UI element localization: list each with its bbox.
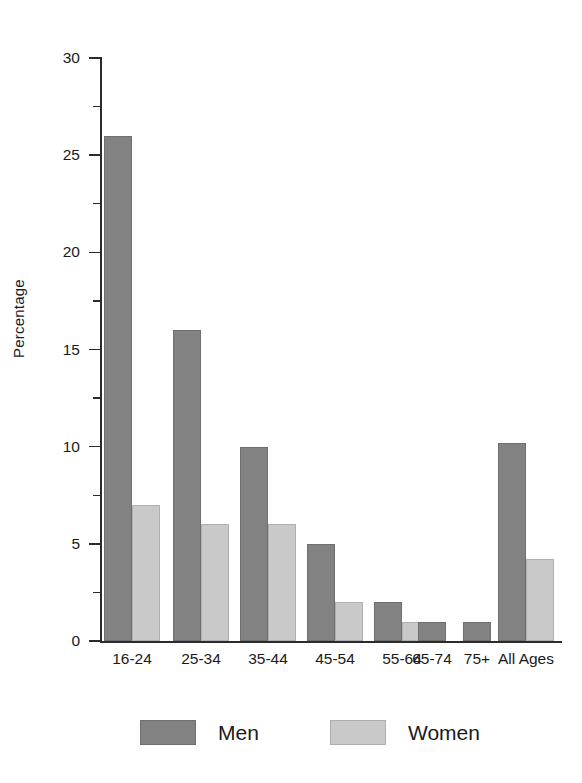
y-tick-minor xyxy=(93,300,100,301)
bar-women-all-ages xyxy=(526,559,554,641)
bar-women-35-44 xyxy=(268,524,296,641)
bar-men-16-24 xyxy=(104,136,132,641)
y-axis-title: Percentage xyxy=(10,239,27,399)
y-tick-minor xyxy=(93,397,100,398)
bar-women-25-34 xyxy=(201,524,229,641)
y-tick-major xyxy=(89,57,100,59)
bar-chart: Percentage 051015202530 16-2425-3435-444… xyxy=(0,0,582,783)
y-tick-minor xyxy=(93,495,100,496)
y-tick-minor xyxy=(93,203,100,204)
bar-women-45-54 xyxy=(335,602,363,641)
bar-men-25-34 xyxy=(173,330,201,641)
bar-men-75- xyxy=(463,622,491,641)
y-tick-minor xyxy=(93,592,100,593)
y-tick-label: 20 xyxy=(12,244,80,260)
bar-women-16-24 xyxy=(132,505,160,641)
y-tick-major xyxy=(89,154,100,156)
y-tick-label: 15 xyxy=(12,342,80,358)
y-tick-label: 25 xyxy=(12,147,80,163)
y-axis-line xyxy=(100,57,102,642)
bar-men-all-ages xyxy=(498,443,526,641)
bar-men-65-74 xyxy=(418,622,446,641)
y-tick-label: 5 xyxy=(12,536,80,552)
bar-men-55-64 xyxy=(374,602,402,641)
y-tick-major xyxy=(89,252,100,254)
legend-entry-men: Men xyxy=(140,720,259,745)
y-tick-major xyxy=(89,640,100,642)
y-tick-major xyxy=(89,446,100,448)
y-tick-label: 10 xyxy=(12,439,80,455)
legend-label-men: Men xyxy=(218,721,259,745)
legend-swatch-men xyxy=(140,720,196,745)
chart-legend: MenWomen xyxy=(0,712,582,760)
y-tick-label: 0 xyxy=(12,633,80,649)
legend-entry-women: Women xyxy=(330,720,480,745)
y-tick-major xyxy=(89,349,100,351)
bar-men-45-54 xyxy=(307,544,335,641)
legend-label-women: Women xyxy=(408,721,480,745)
y-tick-label: 30 xyxy=(12,50,80,66)
y-tick-major xyxy=(89,543,100,545)
bar-men-35-44 xyxy=(240,447,268,641)
x-category-label: All Ages xyxy=(481,650,571,667)
y-tick-minor xyxy=(93,106,100,107)
legend-swatch-women xyxy=(330,720,386,745)
x-axis-line xyxy=(100,641,562,643)
